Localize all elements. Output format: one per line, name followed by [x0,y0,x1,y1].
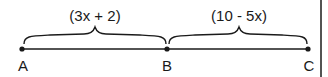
point-c-dot [305,46,310,51]
diagram-svg: (3x + 2) (10 - 5x) A B C [0,0,328,77]
point-b-dot [164,46,169,51]
line-segment-diagram: (3x + 2) (10 - 5x) A B C [0,0,328,77]
point-c-label: C [304,57,315,74]
point-b-label: B [162,57,172,74]
point-a-label: A [18,57,28,74]
point-a-dot [19,46,24,51]
brace-bc [169,27,307,44]
brace-ab [24,27,166,44]
label-ab: (3x + 2) [69,7,120,24]
label-bc: (10 - 5x) [211,7,267,24]
